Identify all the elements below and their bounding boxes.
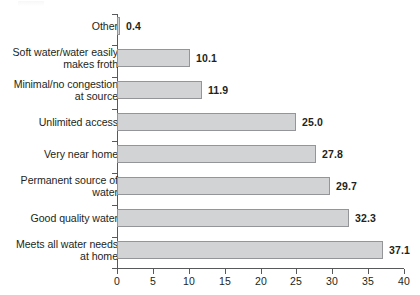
x-axis-tick-label: 15: [219, 275, 231, 287]
bar-value-label: 25.0: [302, 116, 323, 128]
x-axis-tick: [404, 269, 405, 274]
x-axis-tick: [153, 269, 154, 274]
bar: [117, 177, 330, 195]
y-axis-tick: [112, 141, 117, 142]
bar-value-label: 29.7: [336, 180, 357, 192]
bar-value-label: 0.4: [126, 20, 141, 32]
x-axis-tick: [189, 269, 190, 274]
x-axis-tick-label: 30: [326, 275, 338, 287]
x-axis-tick-label: 20: [255, 275, 267, 287]
x-axis-tick: [261, 269, 262, 274]
x-axis-tick: [117, 269, 118, 274]
bar-value-label: 37.1: [389, 244, 410, 256]
bar: [117, 49, 190, 67]
x-axis-tick-label: 0: [114, 275, 120, 287]
x-axis-tick-label: 35: [362, 275, 374, 287]
x-axis-tick-label: 25: [290, 275, 302, 287]
category-label: Meets all water needs at home: [16, 239, 118, 262]
bar-value-label: 10.1: [196, 52, 217, 64]
x-axis-tick-label: 40: [398, 275, 410, 287]
bar: [117, 241, 383, 259]
y-axis-tick: [112, 14, 117, 15]
bar: [117, 113, 296, 131]
x-axis-tick: [332, 269, 333, 274]
category-label: Minimal/no congestion at source: [14, 79, 118, 102]
bar-value-label: 11.9: [208, 84, 228, 96]
category-label: Other: [92, 21, 118, 33]
x-axis-tick: [368, 269, 369, 274]
category-label: Very near home: [44, 149, 118, 161]
category-label: Soft water/water easily makes froth: [13, 47, 118, 70]
y-axis-tick: [112, 205, 117, 206]
x-axis-tick-label: 10: [183, 275, 195, 287]
bar: [117, 209, 349, 227]
category-label: Permanent source of water: [21, 175, 118, 198]
bar-value-label: 27.8: [322, 148, 343, 160]
x-axis-tick-label: 5: [150, 275, 156, 287]
bar: [117, 81, 202, 99]
plot-area: Other 0.4 Soft water/water easily makes …: [0, 0, 420, 295]
category-label: Good quality water: [31, 213, 118, 225]
bar: [117, 17, 120, 35]
x-axis-tick: [225, 269, 226, 274]
y-axis-tick: [112, 109, 117, 110]
bar-value-label: 32.3: [355, 212, 376, 224]
category-label: Unlimited access: [39, 117, 118, 129]
horizontal-bar-chart: Other 0.4 Soft water/water easily makes …: [0, 0, 420, 295]
x-axis-tick: [296, 269, 297, 274]
bar: [117, 145, 316, 163]
